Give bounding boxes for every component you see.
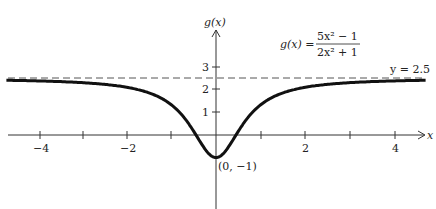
svg-text:2x² + 1: 2x² + 1 [317, 46, 358, 59]
x-tick-label: −2 [120, 142, 136, 155]
svg-text:5x² − 1: 5x² − 1 [317, 30, 358, 43]
x-tick-label: 2 [302, 142, 309, 155]
x-tick-label: −4 [33, 142, 49, 155]
x-tick-label: 4 [392, 142, 399, 155]
y-axis-label: g(x) [204, 16, 226, 29]
y-tick-label: 2 [202, 83, 209, 96]
y-tick-label: 1 [202, 106, 209, 119]
asymptote-label: y = 2.5 [389, 63, 430, 76]
svg-text:g(x) =: g(x) = [280, 38, 315, 51]
function-formula: g(x) = 5x² − 1 2x² + 1 [280, 30, 360, 59]
x-axis-label: x [427, 129, 434, 142]
minimum-point-label: (0, −1) [218, 160, 257, 173]
function-plot: x g(x) −4 −2 2 4 1 2 3 y = 2.5 (0, −1) g… [0, 0, 436, 209]
y-tick-label: 3 [202, 61, 209, 74]
